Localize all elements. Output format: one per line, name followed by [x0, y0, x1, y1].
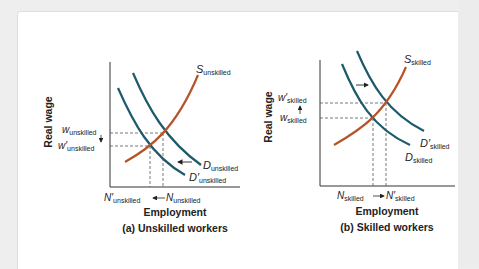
emp-prime-label: N′skilled: [386, 190, 415, 202]
demand-label: Dskilled: [405, 151, 433, 164]
demand-prime-curve: [118, 88, 185, 175]
emp-prime-label: N′unskilled: [104, 192, 140, 204]
demand-prime-label: D′skilled: [420, 137, 450, 150]
demand-prime-label: D′unskilled: [189, 171, 226, 184]
y-axis-label: Real wage: [262, 91, 274, 143]
supply-label: Sunskilled: [196, 63, 231, 76]
wage-label: wskilled: [280, 112, 307, 124]
emp-label: Nunskilled: [166, 192, 201, 204]
y-axis-label: Real wage: [42, 96, 54, 148]
emp-label: Nskilled: [337, 190, 364, 202]
supply-curve: [125, 75, 198, 162]
wage-label: wunskilled: [62, 124, 97, 136]
panel-caption: (b) Skilled workers: [340, 221, 434, 233]
panel-unskilled: Sunskilled Dunskilled D′unskilled wunski…: [42, 62, 240, 234]
supply-label: Sskilled: [404, 53, 431, 66]
panel-caption: (a) Unskilled workers: [122, 222, 228, 234]
x-axis-label: Employment: [355, 205, 419, 217]
x-axis-label: Employment: [143, 206, 207, 218]
demand-label: Dunskilled: [203, 159, 238, 172]
panel-skilled: Sskilled D′skilled Dskilled w′skilled ws…: [262, 51, 455, 233]
wage-prime-label: w′unskilled: [58, 140, 94, 152]
wage-prime-label: w′skilled: [278, 92, 307, 104]
